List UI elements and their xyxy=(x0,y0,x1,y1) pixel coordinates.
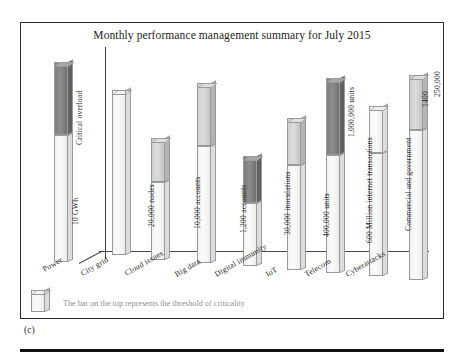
label-iot-value-low: 400,000 units xyxy=(322,163,331,237)
label-cyberattacks-mid: 1400 xyxy=(421,75,430,107)
category-label-big-data: Big data xyxy=(173,257,202,279)
label-critical-overload: Critical overload xyxy=(75,61,84,145)
label-big-data-value: 1,200 accounts xyxy=(239,165,248,233)
plot-area: Critical overload 10 GWh Power 20,000 no… xyxy=(21,23,443,318)
label-digital-immunity-value: 30,000 inoculations xyxy=(283,135,292,235)
category-label-city-grid: City grid xyxy=(79,255,110,278)
bar-body xyxy=(54,135,68,262)
figure-panel: Monthly performance management summary f… xyxy=(20,22,444,319)
label-telecom-value: 600 Million internet transactions xyxy=(365,109,374,243)
label-city-grid-value: 20,000 nodes xyxy=(147,155,156,227)
bar-cap-threshold xyxy=(326,78,340,155)
legend-note: The bar on the top represents the thresh… xyxy=(63,299,245,308)
bar-cap-threshold xyxy=(54,62,68,135)
label-power-value: 10 GWh xyxy=(71,173,80,225)
label-cloud-issues-value: 10,000 accounts xyxy=(193,141,202,229)
reference-divider xyxy=(105,47,106,259)
label-cyberattacks-sector: Commercial and government xyxy=(404,119,413,231)
bar-cap-threshold xyxy=(197,83,211,146)
panel-label: (c) xyxy=(24,325,35,335)
category-label-power: Power xyxy=(41,255,64,274)
bar-body xyxy=(112,90,126,255)
label-iot-value-high: 1,000,000 units xyxy=(347,53,356,137)
bottom-rule xyxy=(20,349,444,352)
label-cyberattacks-high: 250,000 xyxy=(433,43,442,97)
category-label-iot: IoT xyxy=(264,265,279,279)
